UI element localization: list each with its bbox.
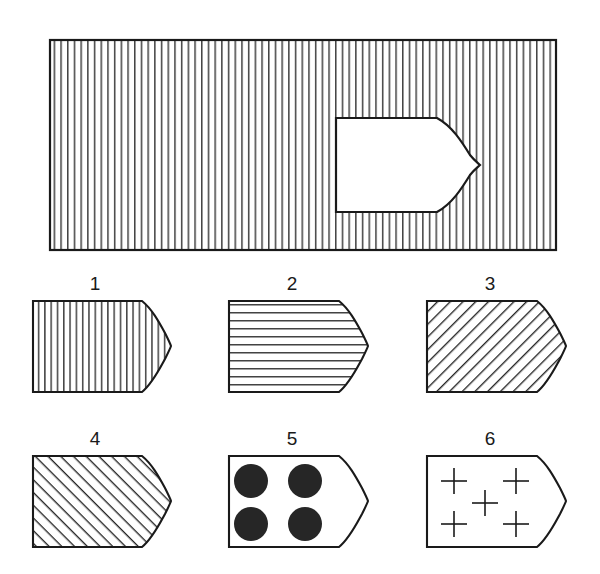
shape-2-label: 2 (287, 273, 298, 294)
shape-5-group: 5 (229, 428, 368, 547)
shape-2-group: 2 (226, 273, 371, 396)
figure-root: 1 2 3 (0, 0, 600, 574)
technical-drawing-svg: 1 2 3 (0, 0, 600, 574)
dot-2 (288, 464, 322, 498)
dot-4 (288, 507, 322, 541)
shape-1-label: 1 (90, 273, 101, 294)
main-hatch-fill (50, 40, 556, 250)
shape-3-group: 3 (424, 273, 569, 396)
dot-1 (234, 464, 268, 498)
main-panel (50, 40, 556, 250)
shape-4-label: 4 (90, 428, 101, 449)
shape-4-group: 4 (30, 428, 175, 551)
shape-5-label: 5 (287, 428, 298, 449)
shape-3-label: 3 (485, 273, 496, 294)
shape-6-label: 6 (485, 428, 496, 449)
shape-1-group: 1 (30, 273, 175, 396)
shape-6-outline (427, 456, 566, 547)
shape-6-group: 6 (427, 428, 566, 547)
dot-3 (234, 507, 268, 541)
